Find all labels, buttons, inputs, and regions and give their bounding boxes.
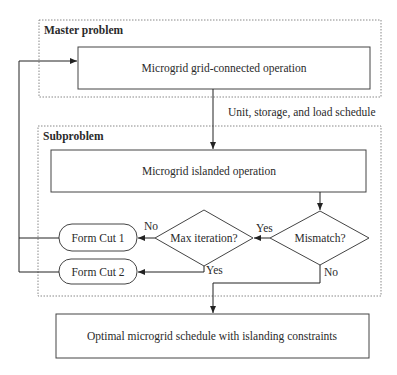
optimal-schedule-label: Optimal microgrid schedule with islandin… [87,330,337,342]
edge-mismatch-no [213,265,320,313]
flowchart-canvas [0,0,397,375]
subproblem-title: Subproblem [43,130,104,142]
form-cut-2-label: Form Cut 2 [71,266,124,278]
islanded-label: Microgrid islanded operation [142,165,276,177]
max-iteration-label: Max iteration? [170,232,237,244]
master-problem-title: Master problem [44,24,123,36]
edge-maxiter-yes [138,266,204,272]
mismatch-label: Mismatch? [294,232,345,244]
grid-connected-label: Microgrid grid-connected operation [142,62,307,74]
form-cut-1-label: Form Cut 1 [71,232,124,244]
schedule-edge-label: Unit, storage, and load schedule [228,106,376,118]
mismatch-no-label: No [324,266,338,278]
maxiter-yes-label: Yes [206,264,223,276]
mismatch-yes-label: Yes [256,222,273,234]
maxiter-no-label: No [144,220,158,232]
